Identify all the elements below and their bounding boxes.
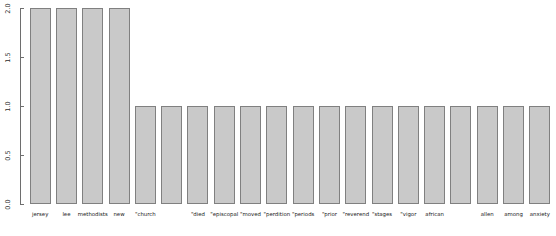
bar-slot — [529, 8, 550, 204]
bar-slot — [477, 8, 498, 204]
bar-slot — [109, 8, 130, 204]
clipped-top-row — [0, 0, 556, 3]
bar — [135, 106, 156, 204]
bar-slot — [135, 8, 156, 204]
y-tick-mark — [20, 8, 24, 9]
bar — [424, 106, 445, 204]
bar-slot — [30, 8, 51, 204]
bar-slot — [187, 8, 208, 204]
bar-slot — [424, 8, 445, 204]
y-tick-label: 0.5 — [5, 147, 12, 163]
bar-slot — [319, 8, 340, 204]
x-axis-labels: jerseyleemethodistsnew"church"died"episc… — [27, 210, 553, 228]
bar — [214, 106, 235, 204]
bar — [82, 8, 103, 204]
bar — [293, 106, 314, 204]
bar-slot — [450, 8, 471, 204]
x-tick-label: anxiety — [511, 210, 556, 218]
bar-slot — [56, 8, 77, 204]
bar — [398, 106, 419, 204]
y-tick-label: 2.0 — [5, 0, 12, 16]
x-tick-label: "church — [116, 210, 174, 218]
bar — [30, 8, 51, 204]
y-tick-label: 1.0 — [5, 98, 12, 114]
bar — [109, 8, 130, 204]
bar — [529, 106, 550, 204]
bar-slot — [266, 8, 287, 204]
bar — [161, 106, 182, 204]
bar — [345, 106, 366, 204]
bar — [266, 106, 287, 204]
bar-slot — [398, 8, 419, 204]
y-tick-mark — [20, 57, 24, 58]
bar — [56, 8, 77, 204]
bar-slot — [82, 8, 103, 204]
bar-slot — [345, 8, 366, 204]
bar-slot — [503, 8, 524, 204]
x-tick-label: african — [406, 210, 464, 218]
bar — [319, 106, 340, 204]
y-tick-mark — [20, 204, 24, 205]
bar — [372, 106, 393, 204]
bar-slot — [372, 8, 393, 204]
bar-slot — [214, 8, 235, 204]
bars-container — [27, 8, 553, 204]
y-tick-mark — [20, 106, 24, 107]
bar — [503, 106, 524, 204]
bar-slot — [161, 8, 182, 204]
bar — [187, 106, 208, 204]
bar-chart-figure: 0.00.51.01.52.0 jerseyleemethodistsnew"c… — [0, 0, 556, 236]
bar-slot — [240, 8, 261, 204]
bar-slot — [293, 8, 314, 204]
bar — [477, 106, 498, 204]
y-tick-label: 1.5 — [5, 49, 12, 65]
bar — [450, 106, 471, 204]
bar — [240, 106, 261, 204]
y-tick-mark — [20, 155, 24, 156]
